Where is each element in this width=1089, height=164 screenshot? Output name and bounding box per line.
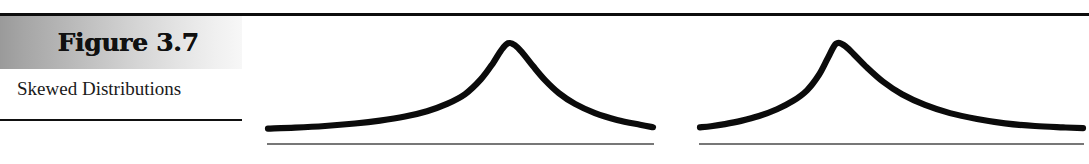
figure-number-banner: Figure 3.7	[0, 16, 242, 69]
positively-skewed-curve	[700, 43, 1083, 128]
figure-number-label: Figure 3.7	[0, 16, 242, 69]
figure-caption-block: Figure 3.7 Skewed Distributions	[0, 16, 242, 126]
figure-container: Figure 3.7 Skewed Distributions	[0, 0, 1089, 164]
plot-positively-skewed	[697, 16, 1085, 164]
positively-skewed-curve-svg	[697, 16, 1085, 164]
distribution-plots	[265, 16, 1085, 164]
caption-underline-rule	[0, 119, 242, 121]
plot-negatively-skewed	[265, 16, 655, 164]
negatively-skewed-curve-svg	[265, 16, 655, 164]
negatively-skewed-curve	[268, 43, 653, 129]
figure-caption-text: Skewed Distributions	[17, 78, 181, 100]
